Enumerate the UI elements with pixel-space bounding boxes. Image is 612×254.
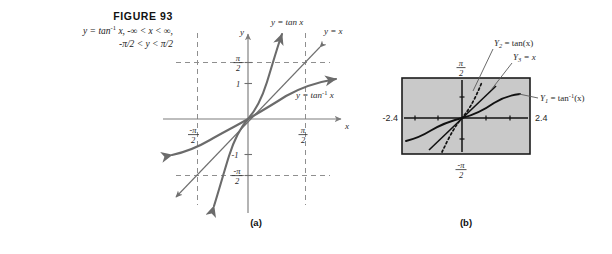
panel-b-calculator: -2.4 2.4 π 2 -π 2 Y2 = tan(x) Y3 = x Y1 …	[0, 0, 612, 254]
calc-ticklabel-pi-over-2-num: π	[459, 58, 464, 68]
calc-label-y3: Y3 = x	[513, 52, 536, 63]
calc-label-y1-eq: = tan	[548, 93, 569, 103]
calc-ticklabel-pi-over-2-den: 2	[459, 68, 464, 78]
figure-container: FIGURE 93 y = tan-1 x, -∞ < x < ∞, -π/2 …	[0, 0, 612, 254]
calc-label-y2: Y2 = tan(x)	[494, 38, 533, 49]
calc-label-xmax: 2.4	[535, 113, 548, 123]
calc-label-y3-eq: = x	[521, 52, 536, 62]
calc-ticklabel-neg-pi-over-2: -π 2	[456, 160, 467, 180]
calc-ticklabel-pi-over-2: π 2	[457, 58, 466, 78]
calc-label-y1-tail: (x)	[574, 93, 585, 103]
calc-label-xmin: -2.4	[382, 113, 398, 123]
calc-ticklabel-neg-pi-over-2-den: 2	[459, 170, 464, 180]
subcaption-b: (b)	[460, 217, 472, 228]
calc-label-y2-eq: = tan(x)	[502, 38, 533, 48]
calc-ticklabel-neg-pi-over-2-num: -π	[457, 160, 465, 170]
calc-label-y1: Y1 = tan-1(x)	[540, 92, 585, 105]
